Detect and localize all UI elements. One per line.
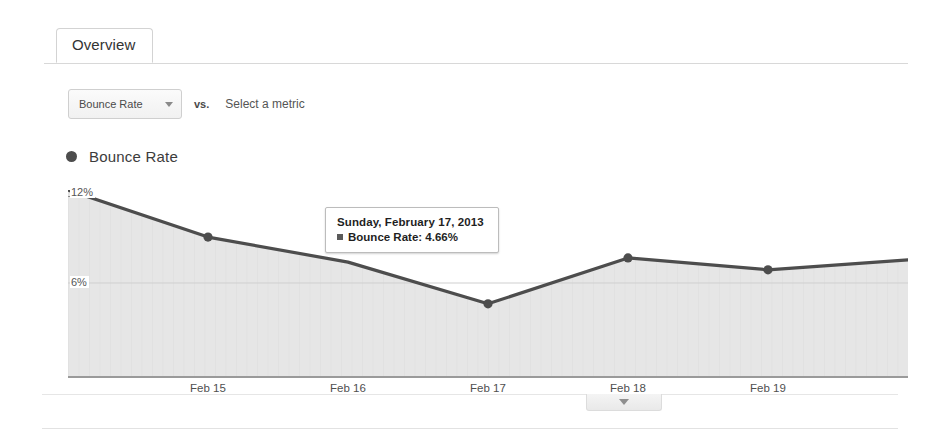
metric-dropdown-label: Bounce Rate — [79, 98, 143, 110]
chart-data-point[interactable] — [483, 299, 492, 308]
chart-data-point[interactable] — [203, 233, 212, 242]
tooltip-series-swatch-icon — [337, 234, 343, 240]
x-axis-label: Feb 17 — [470, 382, 506, 394]
footer-rule-left — [42, 394, 586, 395]
x-axis-labels: Feb 15Feb 16Feb 17Feb 18Feb 19 — [68, 382, 908, 404]
tooltip-date: Sunday, February 17, 2013 — [337, 216, 484, 228]
chart-data-point[interactable] — [763, 265, 772, 274]
footer-rule-right — [660, 394, 898, 395]
chart-data-point[interactable] — [623, 253, 632, 262]
analytics-overview-screen: Overview Bounce Rate vs. Select a metric… — [0, 0, 926, 447]
x-axis-label: Feb 16 — [330, 382, 366, 394]
collapse-panel-button[interactable] — [586, 394, 662, 411]
metric-selector-row: Bounce Rate vs. Select a metric — [68, 88, 305, 120]
y-axis-label-top: 12% — [70, 186, 95, 198]
chevron-down-icon — [619, 399, 629, 405]
tab-strip: Overview — [0, 28, 926, 64]
metric-dropdown-button[interactable]: Bounce Rate — [68, 89, 182, 119]
x-axis-label: Feb 15 — [190, 382, 226, 394]
vs-label: vs. — [194, 98, 209, 110]
x-axis-label: Feb 19 — [750, 382, 786, 394]
select-metric-link[interactable]: Select a metric — [225, 97, 304, 111]
legend-series-label: Bounce Rate — [89, 148, 178, 165]
chevron-down-icon — [165, 102, 173, 107]
tab-strip-rule — [44, 63, 908, 64]
x-axis-label: Feb 18 — [610, 382, 646, 394]
tooltip-metric-value: Bounce Rate: 4.66% — [348, 231, 458, 243]
bottom-divider — [42, 428, 898, 429]
tooltip-metric-row: Bounce Rate: 4.66% — [337, 231, 484, 243]
legend-series-dot-icon — [66, 151, 77, 162]
tab-overview[interactable]: Overview — [56, 28, 153, 63]
chart-tooltip: Sunday, February 17, 2013 Bounce Rate: 4… — [325, 207, 499, 253]
chart-legend: Bounce Rate — [66, 148, 178, 165]
x-axis-line — [68, 376, 908, 378]
y-axis-label-mid: 6% — [70, 276, 89, 288]
